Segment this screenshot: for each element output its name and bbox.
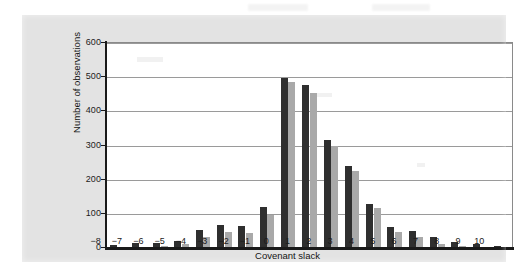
bar-series-2-2: [331, 146, 338, 249]
figure-panel: Number of observations 01002003004005006…: [22, 15, 506, 262]
x-tick-label--4: −4: [170, 237, 191, 246]
x-tick-label-9: 9: [447, 237, 468, 246]
x-tick-label-2: 2: [298, 237, 319, 246]
bar-series-2-0: [288, 82, 295, 248]
x-tick-label-6: 6: [383, 237, 404, 246]
scan-artifact-left: [248, 4, 308, 11]
y-tick-mark-600: [101, 42, 106, 43]
scanned-figure-page: Number of observations 01002003004005006…: [0, 0, 528, 279]
y-tick-mark-500: [101, 76, 106, 77]
x-axis-title: Covenant slack: [85, 250, 490, 261]
y-tick-mark-300: [101, 145, 106, 146]
y-tick-label-400: 400: [86, 106, 101, 115]
x-tick-label-10: 10: [469, 237, 490, 246]
gridline-500: [107, 77, 512, 78]
y-tick-label-500: 500: [86, 72, 101, 81]
plot-area: [107, 42, 513, 248]
x-tick-label-7: 7: [405, 237, 426, 246]
y-tick-mark-100: [101, 213, 106, 214]
y-tick-mark-0: [101, 247, 106, 248]
x-tick-label--3: −3: [192, 237, 213, 246]
x-tick-label-1: 1: [277, 237, 298, 246]
x-tick-label--5: −5: [149, 237, 170, 246]
scan-speck: [417, 163, 425, 167]
y-axis-tick-labels: 0100200300400500600: [57, 15, 101, 262]
y-tick-label-100: 100: [86, 209, 101, 218]
y-tick-mark-200: [101, 179, 106, 180]
y-tick-mark-400: [101, 110, 106, 111]
x-tick-label--1: −1: [234, 237, 255, 246]
x-tick-label-8: 8: [426, 237, 447, 246]
bar-series-1-0: [281, 78, 288, 248]
y-tick-label-200: 200: [86, 175, 101, 184]
bar-series-1-1: [302, 85, 309, 248]
x-tick-label-0: 0: [256, 237, 277, 246]
scan-artifact-right: [372, 4, 430, 11]
x-tick-label--2: −2: [213, 237, 234, 246]
x-tick-label--6: −6: [128, 237, 149, 246]
x-tick-label--8: −8: [85, 237, 106, 246]
gridline-600: [107, 43, 512, 44]
y-tick-label-300: 300: [86, 141, 101, 150]
x-tick-label--7: −7: [106, 237, 127, 246]
y-tick-label-600: 600: [86, 38, 101, 47]
x-tick-label-3: 3: [319, 237, 340, 246]
scan-speck: [137, 57, 163, 62]
bar-series-1-2: [324, 140, 331, 248]
bar-series-2-1: [310, 93, 317, 248]
x-tick-label-5: 5: [362, 237, 383, 246]
x-tick-label-4: 4: [341, 237, 362, 246]
